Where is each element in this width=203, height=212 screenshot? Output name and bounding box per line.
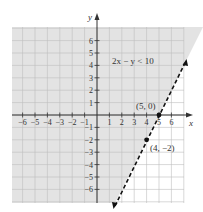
x-tick-label: 5 xyxy=(157,118,161,127)
y-tick-label: 5 xyxy=(89,49,93,58)
x-tick-label: −6 xyxy=(18,118,27,127)
x-tick-label: −3 xyxy=(56,118,65,127)
y-tick-label: −5 xyxy=(84,173,93,182)
x-tick-label: −2 xyxy=(68,118,77,127)
x-tick-label: 1 xyxy=(107,118,111,127)
inequality-graph: −6−5−4−3−2−1123456654321−1−2−3−4−5−6 y x… xyxy=(0,0,203,212)
y-axis-label: y xyxy=(87,12,92,22)
y-tick-label: 6 xyxy=(89,37,93,46)
y-tick-label: −6 xyxy=(84,185,93,194)
y-tick-label: 4 xyxy=(89,61,93,70)
y-tick-label: −3 xyxy=(84,148,93,157)
data-point xyxy=(157,113,162,118)
y-tick-label: −2 xyxy=(84,136,93,145)
x-axis-label: x xyxy=(188,118,193,128)
x-tick-label: 3 xyxy=(132,118,136,127)
y-tick-label: 2 xyxy=(89,86,93,95)
data-point xyxy=(144,137,149,142)
x-arrow-icon xyxy=(186,113,193,118)
point-label-5-0: (5, 0) xyxy=(136,101,156,111)
x-tick-label: 4 xyxy=(145,118,149,127)
x-tick-label: 2 xyxy=(120,118,124,127)
x-tick-label: −5 xyxy=(31,118,40,127)
y-tick-label: 3 xyxy=(89,74,93,83)
y-tick-label: −1 xyxy=(84,123,93,132)
inequality-label: 2x − y < 10 xyxy=(112,56,154,66)
x-tick-label: −4 xyxy=(43,118,52,127)
point-label-4-neg2: (4, −2) xyxy=(150,143,175,153)
y-tick-label: 1 xyxy=(89,99,93,108)
y-tick-label: −4 xyxy=(84,161,93,170)
y-arrow-icon xyxy=(95,13,100,20)
x-tick-label: 6 xyxy=(169,118,173,127)
